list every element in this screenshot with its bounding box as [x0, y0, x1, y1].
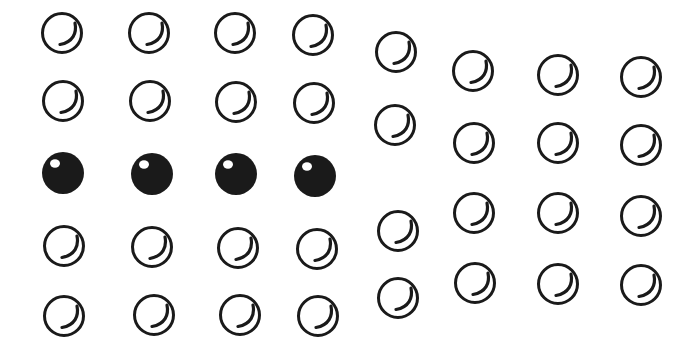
- right-grid-dot: [536, 53, 580, 97]
- hollow-circle-icon: [40, 11, 84, 55]
- left-grid-dot: [295, 227, 339, 271]
- hollow-circle-icon: [536, 262, 580, 306]
- hollow-circle-icon: [373, 103, 417, 147]
- right-grid-dot: [452, 191, 496, 235]
- left-grid-dot: [213, 11, 257, 55]
- filled-circle-icon: [293, 154, 337, 198]
- hollow-circle-icon: [42, 224, 86, 268]
- left-grid-dot: [293, 154, 337, 198]
- hollow-circle-icon: [216, 226, 260, 270]
- right-grid-dot: [619, 55, 663, 99]
- left-grid-dot: [41, 151, 85, 195]
- hollow-circle-icon: [452, 121, 496, 165]
- right-grid-dot: [619, 123, 663, 167]
- filled-circle-icon: [130, 152, 174, 196]
- left-grid-dot: [130, 225, 174, 269]
- hollow-circle-icon: [128, 79, 172, 123]
- right-grid-dot: [376, 276, 420, 320]
- right-grid-dot: [619, 263, 663, 307]
- left-grid-dot: [214, 152, 258, 196]
- left-grid-dot: [42, 224, 86, 268]
- right-grid-dot: [536, 191, 580, 235]
- hollow-circle-icon: [536, 191, 580, 235]
- filled-circle-icon: [41, 151, 85, 195]
- hollow-circle-icon: [296, 294, 340, 338]
- hollow-circle-icon: [536, 53, 580, 97]
- hollow-circle-icon: [619, 263, 663, 307]
- hollow-circle-icon: [42, 294, 86, 338]
- left-grid-dot: [292, 81, 336, 125]
- left-grid-dot: [214, 80, 258, 124]
- hollow-circle-icon: [132, 293, 176, 337]
- hollow-circle-icon: [218, 293, 262, 337]
- hollow-circle-icon: [376, 209, 420, 253]
- filled-circle-icon: [214, 152, 258, 196]
- hollow-circle-icon: [451, 49, 495, 93]
- hollow-circle-icon: [127, 11, 171, 55]
- right-grid-dot: [374, 30, 418, 74]
- left-grid-dot: [128, 79, 172, 123]
- hollow-circle-icon: [374, 30, 418, 74]
- hollow-circle-icon: [41, 79, 85, 123]
- right-grid-dot: [536, 262, 580, 306]
- right-grid-dot: [619, 194, 663, 238]
- right-grid-dot: [373, 103, 417, 147]
- right-grid-dot: [452, 121, 496, 165]
- hollow-circle-icon: [536, 121, 580, 165]
- left-grid-dot: [132, 293, 176, 337]
- left-grid-dot: [42, 294, 86, 338]
- right-grid-dot: [453, 261, 497, 305]
- left-grid-dot: [40, 11, 84, 55]
- left-grid-dot: [291, 13, 335, 57]
- left-grid-dot: [216, 226, 260, 270]
- right-grid-dot: [536, 121, 580, 165]
- hollow-circle-icon: [295, 227, 339, 271]
- left-grid-dot: [41, 79, 85, 123]
- left-grid-dot: [127, 11, 171, 55]
- hollow-circle-icon: [452, 191, 496, 235]
- hollow-circle-icon: [130, 225, 174, 269]
- hollow-circle-icon: [292, 81, 336, 125]
- hollow-circle-icon: [619, 123, 663, 167]
- left-grid-dot: [296, 294, 340, 338]
- hollow-circle-icon: [291, 13, 335, 57]
- hollow-circle-icon: [214, 80, 258, 124]
- hollow-circle-icon: [453, 261, 497, 305]
- left-grid-dot: [218, 293, 262, 337]
- right-grid-dot: [376, 209, 420, 253]
- hollow-circle-icon: [619, 55, 663, 99]
- right-grid-dot: [451, 49, 495, 93]
- hollow-circle-icon: [213, 11, 257, 55]
- hollow-circle-icon: [619, 194, 663, 238]
- hollow-circle-icon: [376, 276, 420, 320]
- left-grid-dot: [130, 152, 174, 196]
